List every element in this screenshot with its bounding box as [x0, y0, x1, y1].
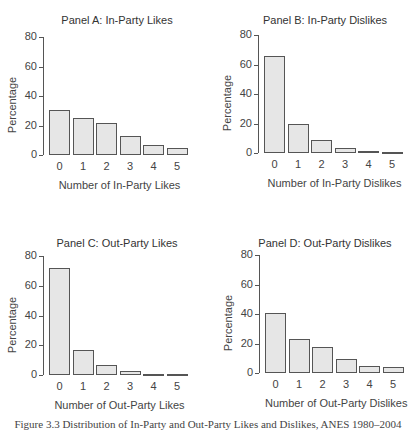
y-axis-label: Percentage: [222, 283, 234, 363]
y-axis: [43, 37, 44, 155]
y-tick: [254, 153, 258, 154]
y-tick: [255, 344, 259, 345]
x-tick-label: 2: [97, 160, 117, 172]
bar-5: [382, 152, 403, 154]
bar-4: [143, 145, 164, 155]
y-tick-label: 40: [15, 309, 37, 321]
bar-2: [96, 365, 117, 375]
bar-5: [167, 148, 188, 155]
y-tick-label: 40: [231, 307, 253, 319]
y-axis-label: Percentage: [221, 63, 233, 143]
y-axis: [258, 35, 259, 153]
y-tick-label: 20: [15, 338, 37, 350]
bar-3: [120, 371, 141, 375]
bar-2: [96, 123, 117, 155]
y-tick-label: 40: [230, 87, 252, 99]
x-tick-label: 3: [120, 160, 140, 172]
y-tick-label: 20: [15, 119, 37, 131]
x-axis-label: Number of Out-Party Likes: [49, 399, 190, 411]
bar-1: [73, 118, 94, 155]
y-axis-label: Percentage: [6, 285, 18, 365]
x-axis-label: Number of Out-Party Dislikes: [265, 397, 406, 409]
panel-c: Panel C: Out-Party Likes020406080Percent…: [0, 218, 208, 423]
y-tick-label: 0: [15, 368, 37, 380]
y-tick-label: 80: [15, 30, 37, 42]
y-tick: [255, 255, 259, 256]
x-tick-label: 3: [336, 378, 356, 390]
y-tick-label: 60: [15, 279, 37, 291]
x-tick-label: 1: [73, 160, 93, 172]
y-tick-label: 0: [231, 366, 253, 378]
bar-5: [167, 374, 188, 376]
bar-3: [336, 359, 357, 373]
y-tick: [39, 256, 43, 257]
y-tick-label: 20: [230, 117, 252, 129]
panel-title: Panel A: In-Party Likes: [0, 14, 208, 26]
x-tick-label: 2: [312, 158, 332, 170]
figure-caption: Figure 3.3 Distribution of In-Party and …: [0, 418, 416, 430]
y-axis-label: Percentage: [6, 65, 18, 145]
y-tick-label: 60: [15, 60, 37, 72]
y-axis: [259, 255, 260, 373]
bar-3: [120, 136, 141, 155]
x-tick-label: 3: [120, 380, 140, 392]
y-tick: [39, 345, 43, 346]
y-tick: [39, 286, 43, 287]
x-tick-label: 5: [383, 378, 403, 390]
bar-4: [358, 151, 379, 153]
x-tick-label: 0: [265, 158, 285, 170]
x-tick-label: 4: [359, 158, 379, 170]
x-tick-label: 5: [382, 158, 402, 170]
y-tick: [39, 96, 43, 97]
y-tick: [255, 285, 259, 286]
y-tick-label: 0: [230, 146, 252, 158]
y-tick: [39, 126, 43, 127]
x-tick-label: 0: [50, 380, 70, 392]
y-tick: [255, 373, 259, 374]
y-tick: [39, 67, 43, 68]
x-tick-label: 4: [144, 380, 164, 392]
x-tick-label: 1: [73, 380, 93, 392]
y-tick: [39, 37, 43, 38]
bar-4: [359, 366, 380, 373]
y-tick-label: 40: [15, 89, 37, 101]
y-tick: [39, 316, 43, 317]
panel-d: Panel D: Out-Party Dislikes020406080Perc…: [208, 218, 416, 423]
bar-1: [288, 124, 309, 154]
bar-0: [49, 268, 70, 375]
y-tick-label: 80: [15, 249, 37, 261]
x-tick-label: 0: [50, 160, 70, 172]
x-tick-label: 1: [288, 158, 308, 170]
bar-5: [383, 367, 404, 373]
panel-b: Panel B: In-Party Dislikes020406080Perce…: [208, 0, 416, 205]
x-tick-label: 4: [360, 378, 380, 390]
y-tick: [254, 124, 258, 125]
y-tick-label: 60: [230, 58, 252, 70]
x-tick-label: 5: [167, 380, 187, 392]
x-tick-label: 3: [335, 158, 355, 170]
x-axis-label: Number of In-Party Dislikes: [264, 177, 405, 189]
x-tick-label: 1: [289, 378, 309, 390]
y-tick-label: 80: [231, 248, 253, 260]
bar-0: [49, 110, 70, 155]
panel-title: Panel C: Out-Party Likes: [0, 237, 208, 249]
bar-2: [312, 347, 333, 373]
bar-0: [265, 313, 286, 373]
y-tick: [254, 35, 258, 36]
x-tick-label: 2: [313, 378, 333, 390]
x-axis-label: Number of In-Party Likes: [49, 179, 190, 191]
y-tick-label: 0: [15, 148, 37, 160]
bar-0: [264, 56, 285, 153]
y-tick: [255, 314, 259, 315]
x-tick-label: 2: [97, 380, 117, 392]
x-tick-label: 5: [167, 160, 187, 172]
y-tick-label: 80: [230, 28, 252, 40]
y-axis: [43, 256, 44, 375]
y-tick-label: 60: [231, 278, 253, 290]
bar-3: [335, 148, 356, 153]
bar-2: [311, 140, 332, 153]
y-tick: [39, 375, 43, 376]
bar-1: [289, 339, 310, 373]
bar-4: [143, 374, 164, 376]
panel-title: Panel B: In-Party Dislikes: [208, 14, 416, 26]
